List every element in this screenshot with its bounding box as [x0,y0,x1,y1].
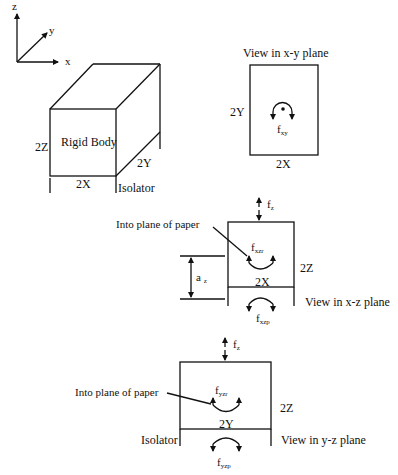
yz-force-label: fz [233,339,240,352]
axis-x-label: x [65,56,71,67]
yz-moment-plane-label: fyzp [217,457,231,470]
xz-height-label: 2Z [300,262,313,274]
rigid-body-box [50,64,160,193]
xz-moment-rotation-label: fxzr [251,242,264,255]
yz-height-label: 2Z [280,402,293,414]
yz-view-title: View in y-z plane [281,434,366,446]
yz-isolator-label: Isolator [141,434,178,446]
xz-moment-plane-label: fxzp [256,313,270,326]
coordinate-axes-icon [17,14,58,62]
xy-view-title: View in x-y plane [243,47,329,59]
xy-moment-label: fxy [277,124,288,137]
xz-force-label: fz [267,199,274,212]
rigid-body-width-label: 2X [76,178,91,190]
diagram-lines [0,0,398,475]
xy-view-height-label: 2Y [230,106,245,118]
axis-y-label: y [49,25,55,36]
xz-pointer-label: Into plane of paper [116,219,199,230]
xz-view-title: View in x-z plane [305,296,390,308]
out-of-page-dot-icon [281,107,285,111]
yz-moment-rotation-label: fyzr [215,385,228,398]
yz-width-label: 2Y [219,418,234,430]
rigid-body-label: Rigid Body [61,136,117,148]
rigid-body-depth-label: 2Y [137,157,152,169]
xy-view-width-label: 2X [276,158,291,170]
xz-width-label: 2X [255,276,270,288]
diagram-canvas: z y x Rigid Body 2Z 2Y 2X Isolator View … [0,0,398,475]
xz-offset-label: a z [196,272,207,285]
rigid-body-height-label: 2Z [35,141,48,153]
axis-z-label: z [12,1,17,12]
yz-pointer-label: Into plane of paper [75,387,158,398]
isolator-label: Isolator [118,182,155,194]
xz-view-rect [180,198,294,311]
